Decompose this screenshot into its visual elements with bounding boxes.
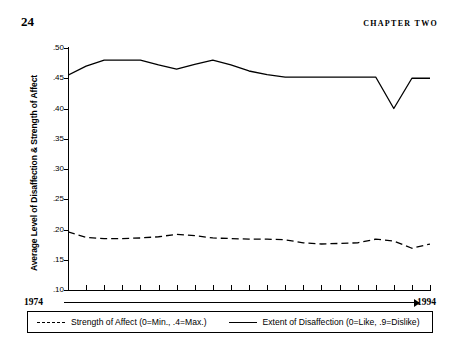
- y-tick-label: .45: [46, 74, 64, 82]
- plot-area: [68, 48, 430, 290]
- y-tick-label: .10: [46, 286, 64, 294]
- legend-dashed-line-icon: [37, 318, 65, 326]
- legend-item-extent-of-disaffection: Extent of Disaffection (0=Like, .9=Disli…: [229, 317, 420, 327]
- y-tick-label: .25: [46, 195, 64, 203]
- x-tick-mark: [430, 285, 431, 291]
- legend-solid-line-icon: [229, 318, 257, 326]
- chart-figure: Average Level of Disaffection & Strength…: [0, 0, 460, 342]
- series-line-solid: [68, 60, 430, 108]
- y-tick-label: .30: [46, 165, 64, 173]
- y-axis-title: Average Level of Disaffection & Strength…: [29, 43, 39, 303]
- y-tick-label: .50: [46, 44, 64, 52]
- year-start-label: 1974: [24, 297, 43, 307]
- legend-item-strength-of-affect: Strength of Affect (0=Min., .4=Max.): [37, 317, 207, 327]
- year-axis-rule: [64, 302, 419, 303]
- series-line-dashed: [68, 232, 430, 248]
- year-axis: 1974 1994: [24, 296, 436, 312]
- y-tick-label: .35: [46, 135, 64, 143]
- y-tick-label: .40: [46, 105, 64, 113]
- y-tick-label: .15: [46, 256, 64, 264]
- y-tick-label: .20: [46, 226, 64, 234]
- plot-svg: [68, 48, 430, 290]
- year-end-label: 1994: [417, 297, 436, 307]
- legend-label-extent-of-disaffection: Extent of Disaffection (0=Like, .9=Disli…: [263, 317, 420, 327]
- y-axis-tick-labels: .50.45.40.35.30.25.20.15.10: [46, 0, 64, 342]
- legend-label-strength-of-affect: Strength of Affect (0=Min., .4=Max.): [71, 317, 207, 327]
- chart-legend: Strength of Affect (0=Min., .4=Max.) Ext…: [27, 311, 433, 333]
